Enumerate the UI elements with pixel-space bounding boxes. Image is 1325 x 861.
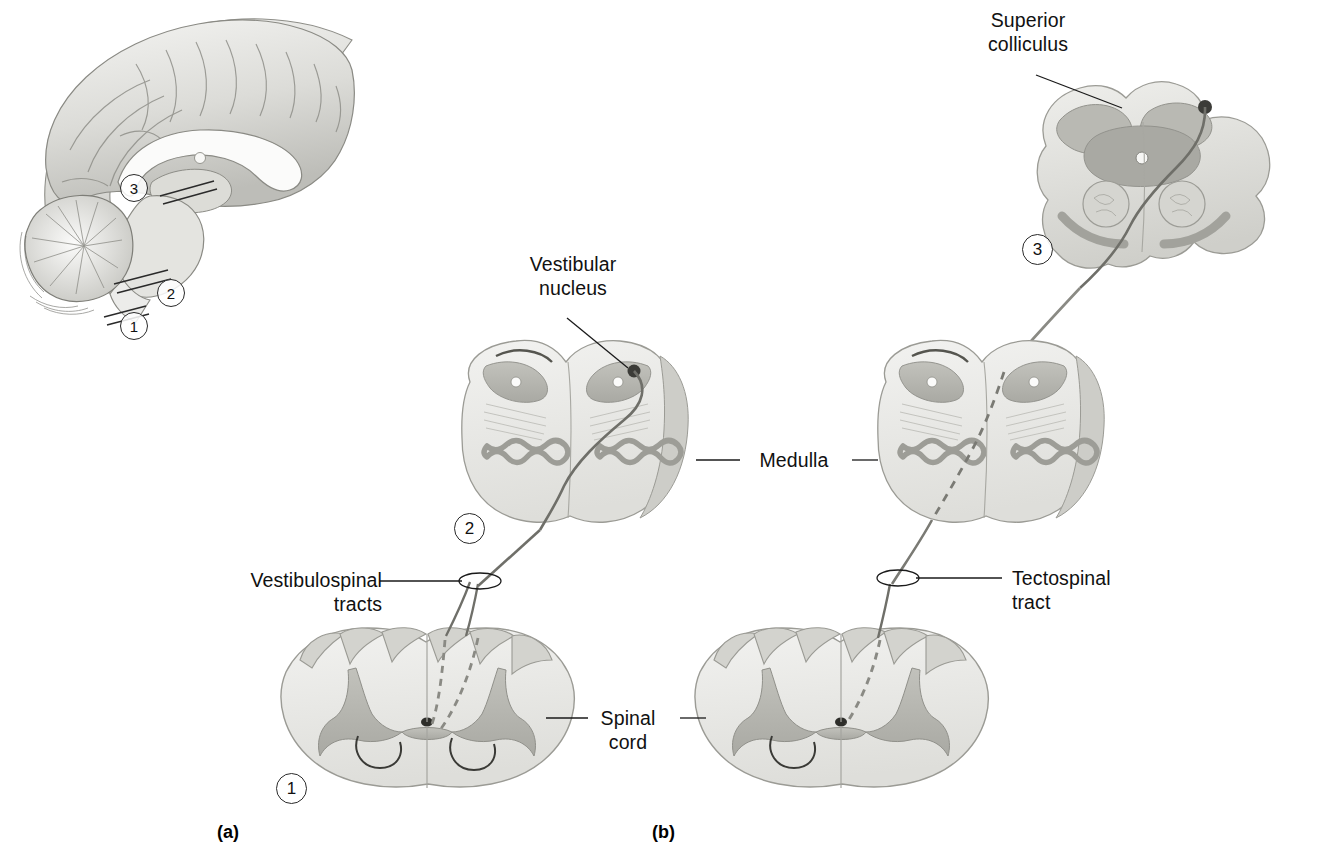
midbrain-marker-3: 3 [1022,234,1053,265]
tectospinal-tract-label: Tectospinal tract [1012,566,1202,614]
medulla-label: Medulla [734,448,854,472]
medulla-section-left [462,340,688,530]
medulla-marker-2: 2 [454,513,485,544]
medulla-section-right [878,340,1104,522]
superior-colliculus-label: Superior colliculus [938,8,1118,56]
figure-canvas: Superior colliculus Vestibular nucleus V… [0,0,1325,861]
panel-caption-b: (b) [652,822,675,843]
brain-marker-3: 3 [120,174,148,202]
spinal-cord-section-right [695,584,988,788]
vestibulospinal-tracts-label: Vestibulospinal tracts [190,568,382,616]
brain-marker-1: 1 [120,312,148,340]
spinal-cord-marker-1: 1 [276,773,307,804]
vestibulospinal-callout-ellipse [459,573,501,589]
brain-marker-2: 2 [157,279,185,307]
spinal-cord-label: Spinal cord [572,706,684,754]
panel-caption-a: (a) [217,822,239,843]
vestibular-nucleus-label: Vestibular nucleus [488,252,658,300]
midbrain-section-right [1037,82,1269,288]
sagittal-brain-inset [20,8,354,325]
